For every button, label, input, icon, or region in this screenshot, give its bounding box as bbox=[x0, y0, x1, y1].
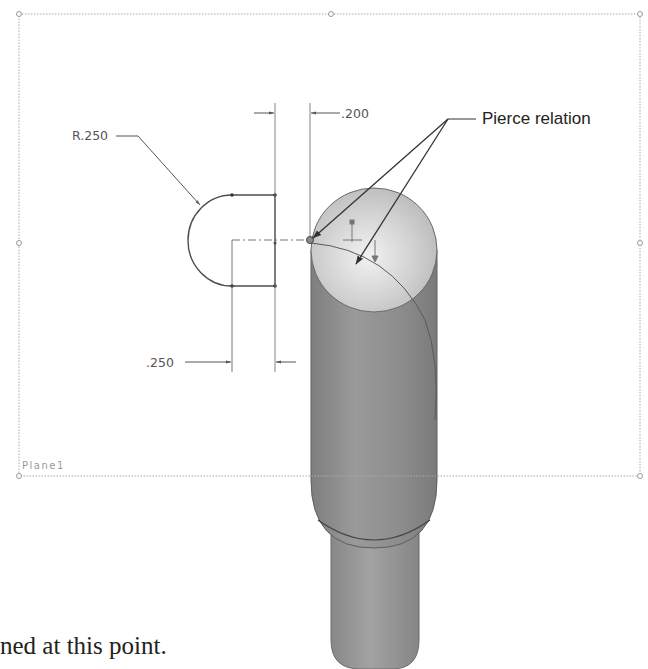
dimension-radius[interactable]: R.250 bbox=[72, 128, 200, 205]
pierce-point[interactable] bbox=[307, 237, 314, 244]
main-cylinder bbox=[311, 188, 437, 548]
centerlines bbox=[232, 240, 308, 372]
caption-text: ned at this point. bbox=[0, 632, 167, 660]
dimension-250-text: .250 bbox=[146, 355, 174, 370]
sketch-points bbox=[230, 193, 277, 288]
dimension-200[interactable]: .200 bbox=[254, 106, 369, 121]
cylinder-top-face bbox=[311, 188, 437, 312]
dimension-radius-text: R.250 bbox=[72, 128, 108, 143]
sketch-profile[interactable] bbox=[188, 195, 275, 286]
pierce-relation-label: Pierce relation bbox=[482, 109, 591, 128]
extension-lines bbox=[275, 103, 310, 372]
plane-label: Plane1 bbox=[22, 460, 65, 471]
cad-viewport: Plane1 .200 .250 R.250 bbox=[0, 0, 648, 669]
dimension-200-text: .200 bbox=[341, 106, 369, 121]
dimension-250[interactable]: .250 bbox=[146, 355, 296, 370]
